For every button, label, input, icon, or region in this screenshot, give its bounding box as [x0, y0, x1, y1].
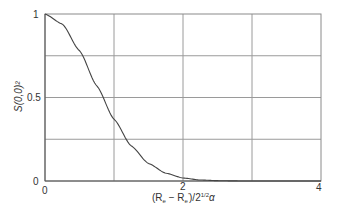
- y-tick-0.5: 0.5: [27, 92, 41, 103]
- y-axis-label: S(0,0)²: [13, 81, 24, 112]
- chart: 1 0.5 0 0 2 4 S(0,0)² (Re − Re')/21/2α: [0, 0, 338, 215]
- x-tick-0: 0: [42, 185, 48, 196]
- x-axis-label: (Re − Re')/21/2α: [152, 192, 215, 204]
- gridlines: [45, 14, 321, 181]
- x-tick-2: 2: [180, 181, 186, 192]
- y-tick-0: 0: [33, 176, 39, 187]
- y-tick-1: 1: [33, 9, 39, 20]
- x-tick-4: 4: [316, 182, 322, 193]
